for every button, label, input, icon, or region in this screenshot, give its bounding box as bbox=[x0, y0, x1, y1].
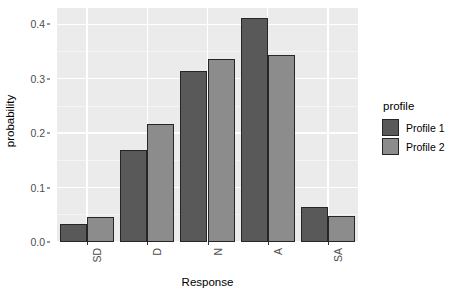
y-axis-ticks: 0.00.10.20.30.4 bbox=[18, 0, 50, 299]
gridline-major-vertical bbox=[86, 8, 87, 242]
x-axis-title: Response bbox=[57, 276, 358, 288]
bar-A-profile-2 bbox=[268, 55, 295, 242]
bar-SD-profile-1 bbox=[60, 224, 87, 242]
x-tick-label-A: A bbox=[272, 248, 284, 255]
x-tick-mark bbox=[268, 242, 269, 245]
y-tick-label: 0.4 bbox=[30, 18, 45, 30]
bar-SA-profile-1 bbox=[301, 207, 328, 242]
bar-SD-profile-2 bbox=[87, 217, 114, 242]
y-axis-title-text: probability bbox=[4, 95, 16, 147]
y-tick-label: 0.1 bbox=[30, 182, 45, 194]
x-tick-label-D: D bbox=[151, 248, 163, 256]
legend-label: Profile 1 bbox=[406, 122, 445, 134]
x-tick-mark bbox=[87, 242, 88, 245]
legend-label: Profile 2 bbox=[406, 141, 445, 153]
x-tick-label-SA: SA bbox=[332, 248, 344, 262]
x-axis-title-text: Response bbox=[182, 276, 234, 288]
bar-chart: probability 0.00.10.20.30.4 SDDNASA Resp… bbox=[0, 0, 465, 299]
x-tick-label-SD: SD bbox=[91, 248, 103, 263]
legend-key bbox=[382, 119, 399, 136]
legend-key bbox=[382, 138, 399, 155]
x-tick-mark bbox=[328, 242, 329, 245]
legend-item-profile-2[interactable]: Profile 2 bbox=[382, 137, 464, 156]
bar-D-profile-2 bbox=[147, 124, 174, 242]
y-tick-label: 0.2 bbox=[30, 127, 45, 139]
legend-swatch bbox=[383, 120, 398, 135]
legend-item-profile-1[interactable]: Profile 1 bbox=[382, 118, 464, 137]
bar-N-profile-2 bbox=[208, 59, 235, 242]
bar-D-profile-1 bbox=[120, 150, 147, 242]
bar-SA-profile-2 bbox=[328, 216, 355, 242]
y-tick-mark bbox=[47, 133, 50, 134]
y-tick-label: 0.3 bbox=[30, 73, 45, 85]
y-tick-mark bbox=[47, 78, 50, 79]
x-tick-mark bbox=[147, 242, 148, 245]
legend-items: Profile 1Profile 2 bbox=[382, 118, 464, 156]
y-axis-title: probability bbox=[2, 0, 18, 242]
y-tick-label: 0.0 bbox=[30, 236, 45, 248]
x-tick-label-N: N bbox=[212, 248, 224, 256]
y-tick-mark bbox=[47, 187, 50, 188]
legend-title: profile bbox=[382, 100, 464, 112]
plot-panel bbox=[57, 8, 358, 242]
y-tick-mark bbox=[47, 24, 50, 25]
legend: profile Profile 1Profile 2 bbox=[382, 100, 464, 156]
x-tick-mark bbox=[208, 242, 209, 245]
bar-N-profile-1 bbox=[180, 71, 207, 242]
bar-A-profile-1 bbox=[241, 18, 268, 242]
y-tick-mark bbox=[47, 242, 50, 243]
legend-swatch bbox=[383, 139, 398, 154]
